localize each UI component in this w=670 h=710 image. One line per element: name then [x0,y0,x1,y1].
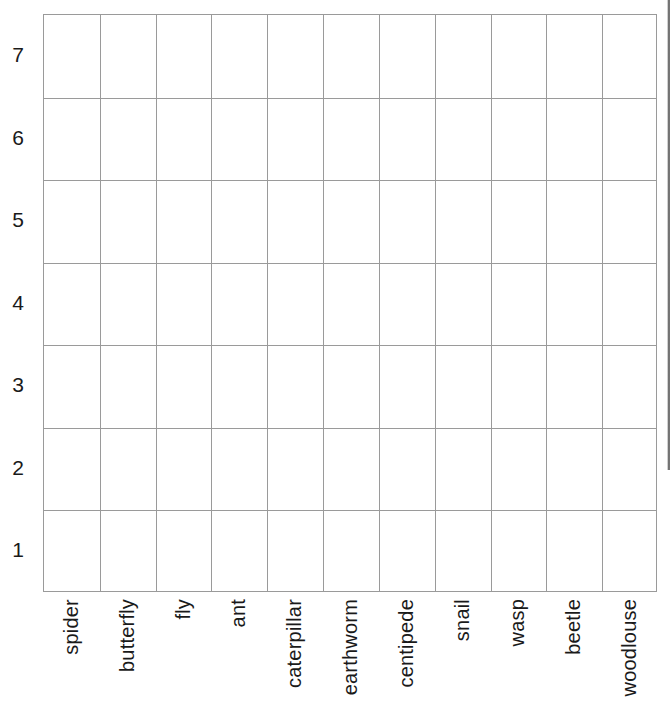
x-category-slot-wasp: wasp [490,592,546,710]
grid-cell[interactable] [156,428,212,511]
grid-cell[interactable] [602,428,658,511]
grid-cell[interactable] [100,345,156,428]
grid-cell[interactable] [379,263,435,346]
grid-cell[interactable] [323,263,379,346]
x-category-slot-snail: snail [434,592,490,710]
grid-cell[interactable] [323,428,379,511]
x-category-slot-fly: fly [155,592,211,710]
grid-cell[interactable] [156,263,212,346]
grid-cell[interactable] [44,180,100,263]
grid-cell[interactable] [156,345,212,428]
grid-cell[interactable] [602,263,658,346]
grid-cell[interactable] [267,345,323,428]
y-tick-label-6: 6 [0,97,36,180]
grid-cell[interactable] [267,428,323,511]
bar-chart-worksheet: 7 6 5 4 3 2 1 [0,0,670,710]
grid-cell[interactable] [100,428,156,511]
grid-cell[interactable] [211,345,267,428]
grid-cell[interactable] [435,98,491,181]
grid-cell[interactable] [435,510,491,593]
grid-cell[interactable] [323,15,379,98]
grid-cell[interactable] [602,345,658,428]
y-tick-label-4: 4 [0,262,36,345]
grid-cell[interactable] [267,98,323,181]
grid-cell[interactable] [435,263,491,346]
grid-cell[interactable] [491,180,547,263]
grid-cell[interactable] [546,345,602,428]
grid-cell[interactable] [267,180,323,263]
grid-cell[interactable] [100,180,156,263]
x-axis-label-snail: snail [450,599,473,641]
grid-cell[interactable] [546,428,602,511]
grid-cell[interactable] [44,510,100,593]
grid-cell[interactable] [435,428,491,511]
grid-cell[interactable] [435,15,491,98]
grid-cell[interactable] [211,263,267,346]
grid-cell[interactable] [267,263,323,346]
grid-cell[interactable] [491,428,547,511]
grid-cell[interactable] [323,510,379,593]
grid-cell[interactable] [379,180,435,263]
grid-cell[interactable] [546,98,602,181]
y-tick-label-1: 1 [0,509,36,592]
grid-cell[interactable] [211,15,267,98]
grid-cell[interactable] [323,180,379,263]
grid-cell[interactable] [156,180,212,263]
grid-cell[interactable] [100,263,156,346]
grid-cell[interactable] [44,428,100,511]
grid-cell[interactable] [156,510,212,593]
x-category-slot-earthworm: earthworm [322,592,378,710]
grid-cell[interactable] [267,15,323,98]
grid-cell[interactable] [100,510,156,593]
grid-cell[interactable] [491,98,547,181]
grid-cell[interactable] [602,510,658,593]
grid-cell[interactable] [491,510,547,593]
grid-cell[interactable] [100,98,156,181]
grid-cell[interactable] [379,15,435,98]
grid-cell[interactable] [44,15,100,98]
y-axis-label-group: 7 6 5 4 3 2 1 [0,14,36,592]
grid-cell[interactable] [379,98,435,181]
grid-cell[interactable] [546,263,602,346]
grid-cell[interactable] [546,15,602,98]
x-category-slot-woodlouse: woodlouse [601,592,657,710]
x-category-slot-spider: spider [43,592,99,710]
x-axis-label-group: spider butterfly fly ant caterpillar ear… [43,592,657,710]
grid-cell[interactable] [211,98,267,181]
x-axis-label-caterpillar: caterpillar [283,599,306,688]
grid-cell[interactable] [491,263,547,346]
grid-cell[interactable] [602,15,658,98]
y-tick-label-7: 7 [0,14,36,97]
grid-cell[interactable] [602,98,658,181]
grid-cell[interactable] [267,510,323,593]
x-category-slot-centipede: centipede [378,592,434,710]
grid-cell[interactable] [491,345,547,428]
grid-cell[interactable] [602,180,658,263]
x-axis-label-wasp: wasp [506,599,529,647]
grid-cell[interactable] [546,510,602,593]
grid-cell[interactable] [379,345,435,428]
y-tick-label-5: 5 [0,179,36,262]
grid-cell[interactable] [435,345,491,428]
x-axis-label-spider: spider [59,599,82,655]
grid-cell[interactable] [156,15,212,98]
grid-cell[interactable] [546,180,602,263]
grid-cell[interactable] [211,180,267,263]
grid-cell[interactable] [156,98,212,181]
grid-cell[interactable] [323,98,379,181]
grid-cell[interactable] [379,428,435,511]
grid-cell[interactable] [379,510,435,593]
grid-cell[interactable] [44,98,100,181]
grid-cell-group [44,15,656,591]
grid-cell[interactable] [44,345,100,428]
grid-cell[interactable] [323,345,379,428]
grid-cell[interactable] [491,15,547,98]
grid-cell[interactable] [211,510,267,593]
plot-area [43,14,657,592]
grid-cell[interactable] [44,263,100,346]
y-tick-label-3: 3 [0,344,36,427]
grid-cell[interactable] [211,428,267,511]
x-axis-label-beetle: beetle [562,599,585,655]
grid-cell[interactable] [435,180,491,263]
grid-cell[interactable] [100,15,156,98]
